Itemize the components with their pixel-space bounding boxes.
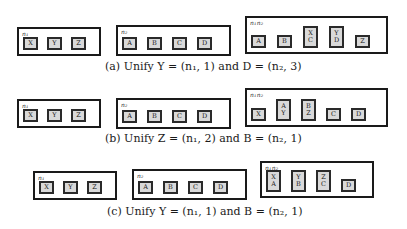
row-b-node-n2: n₂ABCD bbox=[116, 98, 231, 129]
variable-cell: C bbox=[172, 110, 187, 123]
row-c-caption: (c) Unify Y = (n₁, 1) and B = (n₂, 1) bbox=[107, 205, 302, 218]
variable-name: D bbox=[202, 40, 207, 47]
variable-name: B bbox=[282, 38, 287, 45]
variable-cell: A bbox=[122, 110, 137, 123]
variable-name: A bbox=[143, 184, 148, 191]
variable-name: Z bbox=[360, 38, 365, 45]
unified-variable-cell: YB bbox=[291, 170, 306, 192]
node-label: n₁ bbox=[22, 30, 29, 37]
row-a-caption: (a) Unify Y = (n₁, 1) and D = (n₂, 3) bbox=[105, 60, 302, 73]
variable-name: C bbox=[308, 37, 313, 44]
variable-cell: X bbox=[23, 37, 38, 50]
variable-cell: Y bbox=[47, 109, 62, 122]
unified-variable-cell: ZC bbox=[316, 170, 331, 192]
variable-cell: Y bbox=[47, 37, 62, 50]
variable-name: D bbox=[356, 111, 361, 118]
row-b-node-n1n2-merged: n₁n₂XAYBZCD bbox=[245, 88, 388, 127]
variable-name: D bbox=[334, 37, 339, 44]
variable-name: X bbox=[44, 184, 49, 191]
cell-row: ABXCYDZ bbox=[251, 26, 370, 48]
variable-name: Z bbox=[306, 110, 311, 117]
variable-cell: Y bbox=[63, 181, 78, 194]
variable-cell: B bbox=[147, 37, 162, 50]
variable-cell: X bbox=[23, 109, 38, 122]
row-a-node-n2: n₂ABCD bbox=[116, 25, 231, 56]
variable-name: B bbox=[296, 181, 301, 188]
variable-name: C bbox=[177, 113, 182, 120]
cell-row: ABCD bbox=[122, 110, 212, 123]
variable-name: Y bbox=[52, 112, 56, 119]
variable-cell: X bbox=[39, 181, 54, 194]
variable-name: C bbox=[177, 40, 182, 47]
variable-cell: B bbox=[163, 181, 178, 194]
variable-cell: Z bbox=[71, 37, 86, 50]
cell-row: XAYBZCD bbox=[251, 99, 366, 121]
cell-row: XYZ bbox=[23, 37, 86, 50]
variable-cell: Z bbox=[355, 35, 370, 48]
variable-name: A bbox=[271, 181, 276, 188]
variable-name: A bbox=[127, 113, 132, 120]
variable-cell: C bbox=[172, 37, 187, 50]
variable-cell: D bbox=[213, 181, 228, 194]
variable-cell: D bbox=[197, 37, 212, 50]
variable-cell: A bbox=[122, 37, 137, 50]
variable-cell: C bbox=[326, 108, 341, 121]
unified-variable-cell: YD bbox=[329, 26, 344, 48]
node-label: n₂ bbox=[121, 28, 128, 35]
variable-name: Z bbox=[92, 184, 97, 191]
variable-cell: D bbox=[197, 110, 212, 123]
row-b-node-n1: n₁XYZ bbox=[17, 99, 101, 128]
node-label: n₁n₂ bbox=[250, 91, 263, 98]
variable-name: B bbox=[152, 40, 157, 47]
variable-name: D bbox=[218, 184, 223, 191]
variable-name: Y bbox=[68, 184, 72, 191]
variable-cell: B bbox=[147, 110, 162, 123]
row-c-node-n1n2-merged: n₁n₂XAYBZCD bbox=[260, 161, 374, 198]
cell-row: XAYBZCD bbox=[266, 170, 356, 192]
variable-name: D bbox=[202, 113, 207, 120]
variable-cell: Z bbox=[87, 181, 102, 194]
variable-name: B bbox=[152, 113, 157, 120]
node-label: n₁ bbox=[22, 102, 29, 109]
variable-name: D bbox=[346, 182, 351, 189]
variable-name: C bbox=[331, 111, 336, 118]
variable-name: C bbox=[321, 181, 326, 188]
variable-cell: C bbox=[188, 181, 203, 194]
variable-name: A bbox=[127, 40, 132, 47]
variable-name: Z bbox=[76, 112, 81, 119]
variable-cell: X bbox=[251, 108, 266, 121]
node-label: n₁ bbox=[38, 174, 45, 181]
row-a-node-n1: n₁XYZ bbox=[17, 27, 101, 56]
row-a-node-n1n2-merged: n₁n₂ABXCYDZ bbox=[245, 16, 388, 54]
variable-name: Z bbox=[76, 40, 81, 47]
variable-name: X bbox=[28, 112, 33, 119]
unified-variable-cell: BZ bbox=[301, 99, 316, 121]
variable-name: C bbox=[193, 184, 198, 191]
row-c-node-n2: n₂ABCD bbox=[132, 169, 247, 200]
variable-cell: D bbox=[341, 179, 356, 192]
cell-row: XYZ bbox=[39, 181, 102, 194]
variable-cell: Z bbox=[71, 109, 86, 122]
node-label: n₂ bbox=[121, 101, 128, 108]
variable-name: B bbox=[168, 184, 173, 191]
variable-cell: B bbox=[277, 35, 292, 48]
node-label: n₂ bbox=[137, 172, 144, 179]
variable-cell: A bbox=[251, 35, 266, 48]
row-b-caption: (b) Unify Z = (n₁, 2) and B = (n₂, 1) bbox=[105, 132, 302, 145]
variable-name: X bbox=[28, 40, 33, 47]
variable-name: Y bbox=[281, 110, 285, 117]
variable-name: A bbox=[256, 38, 261, 45]
variable-name: X bbox=[256, 111, 261, 118]
cell-row: XYZ bbox=[23, 109, 86, 122]
variable-cell: D bbox=[351, 108, 366, 121]
cell-row: ABCD bbox=[138, 181, 228, 194]
cell-row: ABCD bbox=[122, 37, 212, 50]
unified-variable-cell: AY bbox=[276, 99, 291, 121]
row-c-node-n1: n₁XYZ bbox=[33, 171, 117, 200]
node-label: n₁n₂ bbox=[250, 19, 263, 26]
unified-variable-cell: XC bbox=[303, 26, 318, 48]
variable-cell: A bbox=[138, 181, 153, 194]
variable-name: Y bbox=[52, 40, 56, 47]
unified-variable-cell: XA bbox=[266, 170, 281, 192]
